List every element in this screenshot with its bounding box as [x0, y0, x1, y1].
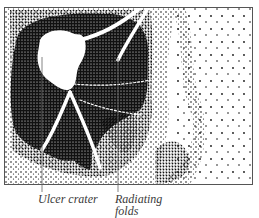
- ulcer-crater-label: Ulcer crater: [38, 193, 98, 205]
- radiating-folds-label: Radiating folds: [115, 193, 162, 217]
- ulcer-illustration: [0, 0, 259, 218]
- illustration-body: [5, 8, 255, 184]
- radiating-folds-label-line2: folds: [115, 205, 162, 217]
